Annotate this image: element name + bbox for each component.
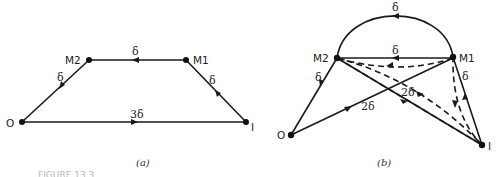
arrow-b-dashed-i-m1 — [452, 100, 458, 108]
edge-label-a-m1-m2: δ — [132, 45, 139, 58]
node-b-m1 — [450, 54, 456, 60]
node-a-m2 — [86, 57, 92, 63]
edge-label-b-m2-i: 2δ — [401, 86, 415, 99]
diagram-a: M2 M1 O I δ δ 3δ δ (a) — [6, 45, 254, 168]
edge-label-a-i-m1: δ — [209, 74, 216, 87]
diagram-b: M2 M1 O I δ δ δ 2δ 2δ δ (b) — [277, 1, 491, 168]
node-label-a-m1: M1 — [193, 54, 209, 66]
diagram-canvas: M2 M1 O I δ δ 3δ δ (a) — [0, 0, 498, 177]
node-a-o — [19, 119, 25, 125]
caption-b: (b) — [377, 157, 391, 168]
edge-label-b-m1-m2: δ — [392, 44, 399, 57]
node-label-a-m2: M2 — [65, 54, 81, 66]
node-b-o — [288, 132, 294, 138]
edge-a-m2-o — [22, 60, 89, 122]
node-label-b-m2: M2 — [313, 52, 329, 64]
node-label-b-o: O — [277, 129, 285, 141]
edge-label-b-m2-o: δ — [315, 71, 322, 84]
arrow-b-i-m1 — [462, 93, 468, 100]
edge-label-b-o-m1: 2δ — [361, 100, 375, 113]
node-label-a-o: O — [6, 117, 14, 129]
arrow-b-o-m1 — [344, 106, 352, 112]
edge-label-a-o-i: 3δ — [130, 108, 144, 121]
edge-label-a-m2-o: δ — [57, 71, 64, 84]
edge-b-o-m1 — [291, 58, 453, 135]
node-label-b-m1: M1 — [459, 52, 475, 64]
node-a-i — [243, 119, 249, 125]
node-a-m1 — [183, 57, 189, 63]
edge-b-dashed-m2-i — [337, 58, 482, 145]
node-label-b-i: I — [488, 140, 491, 152]
node-label-a-i: I — [251, 121, 254, 133]
figure-caption-fragment: FIGURE 13.3 — [38, 170, 94, 177]
node-b-i — [479, 142, 485, 148]
edge-label-b-i-m1: δ — [462, 70, 469, 83]
node-b-m2 — [334, 55, 340, 61]
caption-a: (a) — [136, 157, 150, 168]
edge-label-b-arc: δ — [392, 1, 399, 14]
